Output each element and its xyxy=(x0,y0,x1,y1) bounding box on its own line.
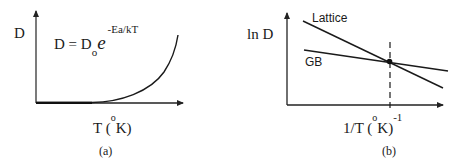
panel-a-y-label: D xyxy=(14,26,25,41)
equation-subscript: o xyxy=(92,46,98,58)
x-label-text: T ( xyxy=(93,120,111,136)
panel-b-x-label: 1/T (oK)-1 xyxy=(343,121,402,136)
x-label-text: 1/T ( xyxy=(343,120,372,136)
gb-line xyxy=(304,50,448,71)
x-label-unit: K) xyxy=(116,120,132,136)
equation-base: e xyxy=(97,32,105,53)
x-label-degree: o xyxy=(111,112,116,123)
intersection-point xyxy=(387,59,393,65)
x-label-unit: K) xyxy=(377,120,393,136)
panel-a-x-label: T (oK) xyxy=(93,121,131,136)
panel-a-caption: (a) xyxy=(99,145,112,157)
panel-b-y-label: ln D xyxy=(247,27,273,42)
equation-lhs: D = D xyxy=(54,36,92,52)
equation-exponent: -Ea/kT xyxy=(108,23,139,35)
x-label-degree: o xyxy=(372,112,377,123)
panel-a-equation: D = Doe-Ea/kT xyxy=(54,33,138,52)
lattice-line xyxy=(303,21,443,88)
lattice-label: Lattice xyxy=(312,12,347,24)
panel-b-caption: (b) xyxy=(382,145,396,157)
x-label-exponent: -1 xyxy=(393,111,402,123)
gb-label: GB xyxy=(305,56,322,68)
diagram-canvas xyxy=(0,0,463,166)
